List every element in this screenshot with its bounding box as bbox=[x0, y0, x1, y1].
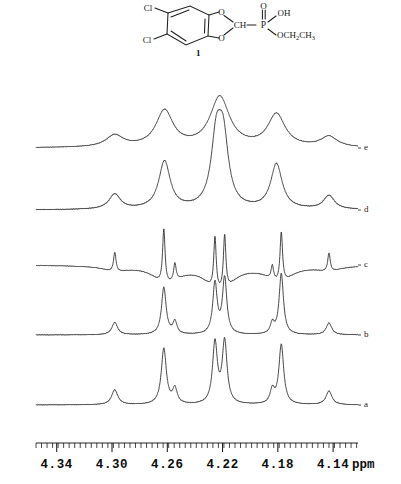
trace-label-d: d bbox=[364, 204, 369, 214]
trace-label-c: c bbox=[364, 259, 368, 269]
spectrum-trace-c bbox=[36, 229, 358, 283]
trace-label-b: b bbox=[364, 329, 369, 339]
atom-label-cl-upper: Cl bbox=[144, 3, 153, 13]
spectrum-trace-e bbox=[36, 95, 358, 147]
axis-tick-label-4-26: 4.26 bbox=[151, 458, 183, 472]
atom-label-ch: CH bbox=[234, 20, 247, 30]
axis-tick-label-4-18: 4.18 bbox=[262, 458, 294, 472]
atom-label-o-upper: O bbox=[218, 7, 225, 17]
axis-tick-label-4-14: 4.14 bbox=[317, 458, 349, 472]
axis-unit-label: ppm bbox=[352, 458, 375, 472]
spectra-svg bbox=[0, 72, 401, 440]
atom-label-ethoxy: OCH2CH3 bbox=[277, 30, 315, 41]
axis-tick-label-4-22: 4.22 bbox=[206, 458, 238, 472]
atom-label-o-lower: O bbox=[218, 33, 225, 43]
atom-label-cl-lower: Cl bbox=[143, 35, 152, 45]
atom-label-oh: OH bbox=[278, 8, 291, 18]
structure-svg: Cl Cl O O CH P O OH OCH2CH3 bbox=[0, 0, 401, 72]
trace-label-a: a bbox=[364, 399, 368, 409]
compound-structure-diagram: Cl Cl O O CH P O OH OCH2CH3 1 bbox=[0, 0, 401, 72]
axis-tick-labels: 4.344.304.264.224.184.14ppm bbox=[0, 458, 401, 482]
atom-label-o-phosphoryl: O bbox=[260, 1, 267, 11]
spectrum-trace-d bbox=[36, 109, 358, 210]
axis-tick-label-4-30: 4.30 bbox=[96, 458, 128, 472]
axis-tick-label-4-34: 4.34 bbox=[40, 458, 72, 472]
compound-number-label: 1 bbox=[196, 48, 201, 58]
spectrum-trace-a bbox=[36, 337, 358, 405]
trace-label-e: e bbox=[364, 142, 368, 152]
spectrum-trace-b bbox=[36, 273, 358, 335]
atom-label-p: P bbox=[261, 20, 266, 30]
nmr-spectra-panel: e d c b a bbox=[0, 72, 401, 440]
